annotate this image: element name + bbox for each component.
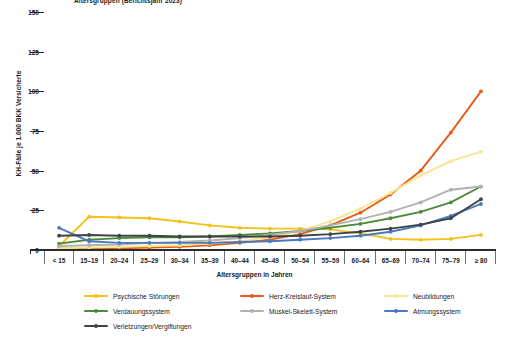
data-point <box>359 230 363 234</box>
data-point <box>208 224 212 228</box>
data-point <box>359 211 363 215</box>
data-point <box>57 244 61 248</box>
data-point <box>328 224 332 228</box>
legend-label: Verdauungssystem <box>113 308 170 315</box>
data-point <box>389 210 393 214</box>
data-point <box>328 220 332 224</box>
y-axis-tick-label: 75 <box>32 128 44 135</box>
x-axis-title: Altersgruppen in Jahren <box>0 271 509 278</box>
y-axis-tick-label: 25 <box>32 207 44 214</box>
y-axis-tick-label: 0 <box>35 247 44 254</box>
legend-label: Herz-Kreislauf-System <box>269 293 336 300</box>
x-axis-labels: < 1515–1920–2425–2930–3435–3940–4445–495… <box>44 252 496 268</box>
x-axis-tick-label: 75–79 <box>436 252 466 268</box>
legend-item[interactable]: Muskel-Skelett-System <box>240 307 337 315</box>
data-point <box>298 238 302 242</box>
plot-area: 0255075100125150 <box>44 12 496 250</box>
legend-color-swatch <box>240 292 264 300</box>
series-lines <box>44 12 496 250</box>
data-point <box>148 234 152 238</box>
data-point <box>419 174 423 178</box>
data-point <box>208 241 212 245</box>
data-point <box>148 241 152 245</box>
data-point <box>419 238 423 242</box>
data-point <box>479 197 483 201</box>
data-point <box>268 239 272 243</box>
data-point <box>419 201 423 205</box>
data-point <box>359 207 363 211</box>
legend-label: Verletzungen/Vergiftungen <box>113 323 191 330</box>
data-point <box>449 188 453 192</box>
y-axis-tick-label: 50 <box>32 167 44 174</box>
data-point <box>87 243 91 247</box>
y-axis-tick-label: 125 <box>28 48 44 55</box>
x-axis-tick-label: 65–69 <box>376 252 406 268</box>
data-point <box>328 232 332 236</box>
data-point <box>117 216 121 220</box>
x-axis-tick-label: 55–59 <box>315 252 345 268</box>
x-axis-tick-label: 70–74 <box>406 252 436 268</box>
data-point <box>479 233 483 237</box>
data-point <box>449 237 453 241</box>
legend-color-swatch <box>84 307 108 315</box>
axis-end-cap <box>30 250 31 254</box>
data-point <box>389 191 393 195</box>
y-axis-title: KH-Fälle je 1.000 BKK Versicherte <box>15 59 22 189</box>
legend-color-swatch <box>384 307 408 315</box>
legend-item[interactable]: Psychische Störungen <box>84 292 180 300</box>
x-axis-tick-label: < 15 <box>44 252 74 268</box>
data-point <box>359 222 363 226</box>
data-point <box>449 201 453 205</box>
legend-label: Psychische Störungen <box>113 293 180 300</box>
data-point <box>449 131 453 135</box>
data-point <box>268 227 272 231</box>
data-point <box>238 235 242 239</box>
data-point <box>479 185 483 189</box>
data-point <box>419 169 423 173</box>
legend-item[interactable]: Atmungssystem <box>384 307 461 315</box>
data-point <box>117 234 121 238</box>
legend-color-swatch <box>384 292 408 300</box>
x-axis-tick-label: 25–29 <box>134 252 164 268</box>
legend-label: Atmungssystem <box>413 308 461 315</box>
data-point <box>419 223 423 227</box>
data-point <box>359 234 363 238</box>
legend-color-swatch <box>240 307 264 315</box>
data-point <box>87 215 91 219</box>
data-point <box>389 227 393 231</box>
legend-color-swatch <box>84 292 108 300</box>
y-axis-tick-label: 100 <box>28 88 44 95</box>
legend-item[interactable]: Herz-Kreislauf-System <box>240 292 336 300</box>
legend-item[interactable]: Neubildungen <box>384 292 454 300</box>
data-point <box>359 217 363 221</box>
data-point <box>178 220 182 224</box>
x-axis-tick-label: 35–39 <box>195 252 225 268</box>
data-point <box>238 226 242 230</box>
legend-color-swatch <box>84 322 108 330</box>
data-point <box>87 239 91 243</box>
x-axis-tick-label: ≥ 80 <box>466 252 496 268</box>
data-point <box>57 234 61 238</box>
data-point <box>389 216 393 220</box>
data-point <box>298 234 302 238</box>
data-point <box>449 216 453 220</box>
data-point <box>328 236 332 240</box>
data-point <box>449 159 453 163</box>
chart-container: Altersgruppen (Berichtsjahr 2023) KH-Fäl… <box>0 0 509 340</box>
legend-item[interactable]: Verdauungssystem <box>84 307 170 315</box>
data-point <box>389 237 393 241</box>
data-point <box>419 210 423 214</box>
data-point <box>178 241 182 245</box>
x-axis-tick-label: 50–54 <box>285 252 315 268</box>
data-point <box>298 229 302 233</box>
x-axis-tick-label: 30–34 <box>165 252 195 268</box>
x-axis-tick-label: 40–44 <box>225 252 255 268</box>
x-axis-tick-label: 60–64 <box>345 252 375 268</box>
legend-label: Neubildungen <box>413 293 454 300</box>
legend-item[interactable]: Verletzungen/Vergiftungen <box>84 322 191 330</box>
data-point <box>268 235 272 239</box>
data-point <box>178 235 182 239</box>
data-point <box>479 202 483 206</box>
x-axis-tick-label: 15–19 <box>74 252 104 268</box>
data-point <box>117 241 121 245</box>
